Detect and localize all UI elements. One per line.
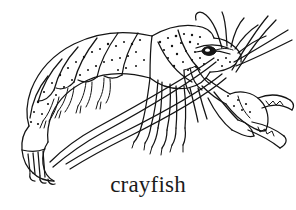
figure-caption: crayfish bbox=[0, 172, 296, 198]
crayfish-figure: crayfish bbox=[0, 0, 296, 210]
